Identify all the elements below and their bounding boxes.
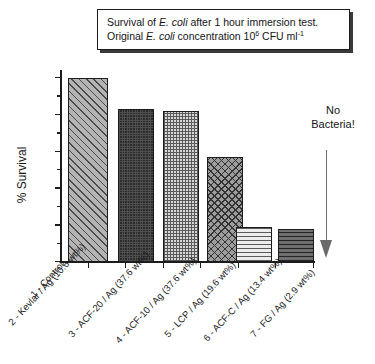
x-axis-labels: 1 - Control 2 - Kevlar / Ag (10.6 wt%) 3… xyxy=(0,0,375,364)
down-arrow-head-icon xyxy=(320,240,332,258)
annotation-line-2: Bacteria! xyxy=(296,118,370,132)
x-label-6: 6 - ACF-C / Ag (13.4 wt%) xyxy=(201,256,284,343)
x-label-2: 2 - Kevlar / Ag (10.6 wt%) xyxy=(6,241,88,327)
plot-area: 100 80 60 40 20 0 % Survival 1 - Control… xyxy=(0,0,375,364)
no-bacteria-annotation: No Bacteria! xyxy=(296,104,370,131)
annotation-line-1: No xyxy=(296,104,370,118)
figure: Survival of E. coli after 1 hour immersi… xyxy=(0,0,375,364)
down-arrow-icon xyxy=(326,150,328,244)
